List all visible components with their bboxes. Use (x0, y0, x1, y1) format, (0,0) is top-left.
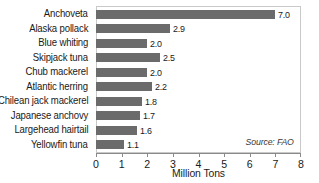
bar (96, 82, 152, 91)
bar-value-label: 1.1 (127, 138, 139, 151)
x-axis-tick (122, 153, 123, 157)
bar-value-label: 7.0 (278, 8, 290, 21)
bar-row: 1.8 (96, 94, 301, 109)
bar-row: 7.0 (96, 7, 301, 22)
bar (96, 126, 137, 135)
x-axis-line: 012345678 (96, 153, 301, 154)
bar-value-label: 2.5 (163, 51, 175, 64)
bar-value-label: 2.2 (155, 80, 167, 93)
x-axis-tick (199, 153, 200, 157)
category-label: Yellowfin tuna (31, 138, 88, 153)
bar-row: 2.2 (96, 80, 301, 95)
category-axis-labels: AnchovetaAlaska pollackBlue whitingSkipj… (0, 7, 92, 152)
bar-chart: AnchovetaAlaska pollackBlue whitingSkipj… (0, 0, 319, 183)
bar-value-label: 1.6 (140, 124, 152, 137)
bar (96, 140, 124, 149)
category-label: Blue whiting (38, 36, 88, 51)
category-label: Alaska pollack (29, 22, 88, 37)
x-axis-tick (275, 153, 276, 157)
bar (96, 111, 140, 120)
category-label: Chub mackerel (25, 65, 88, 80)
category-label: Largehead hairtail (14, 123, 88, 138)
bar (96, 39, 147, 48)
bar-value-label: 2.0 (150, 37, 162, 50)
bar-row: 2.0 (96, 65, 301, 80)
bar (96, 53, 160, 62)
category-label: Skipjack tuna (33, 51, 88, 66)
x-axis-tick (173, 153, 174, 157)
bar (96, 10, 275, 19)
category-label: Chilean jack mackerel (0, 94, 88, 109)
bars-layer: 7.02.92.02.52.02.21.81.71.61.1 (96, 7, 301, 152)
x-axis-title: Million Tons (96, 168, 301, 179)
bar-value-label: 2.9 (173, 22, 185, 35)
bar-row: 1.6 (96, 123, 301, 138)
x-axis-tick (96, 153, 97, 157)
category-label: Atlantic herring (26, 80, 88, 95)
x-axis-tick (147, 153, 148, 157)
bar-row: 1.7 (96, 109, 301, 124)
bar-value-label: 1.7 (143, 109, 155, 122)
x-axis-tick (300, 153, 301, 157)
x-axis-tick (224, 153, 225, 157)
x-axis-tick (250, 153, 251, 157)
bar-row: 2.0 (96, 36, 301, 51)
bar-row: 2.5 (96, 51, 301, 66)
bar-row: 1.1 (96, 138, 301, 153)
bar (96, 24, 170, 33)
category-label: Japanese anchovy (10, 109, 88, 124)
category-label: Anchoveta (44, 7, 88, 22)
bar (96, 68, 147, 77)
bar-value-label: 1.8 (145, 95, 157, 108)
bar (96, 97, 142, 106)
bar-value-label: 2.0 (150, 66, 162, 79)
bar-row: 2.9 (96, 22, 301, 37)
